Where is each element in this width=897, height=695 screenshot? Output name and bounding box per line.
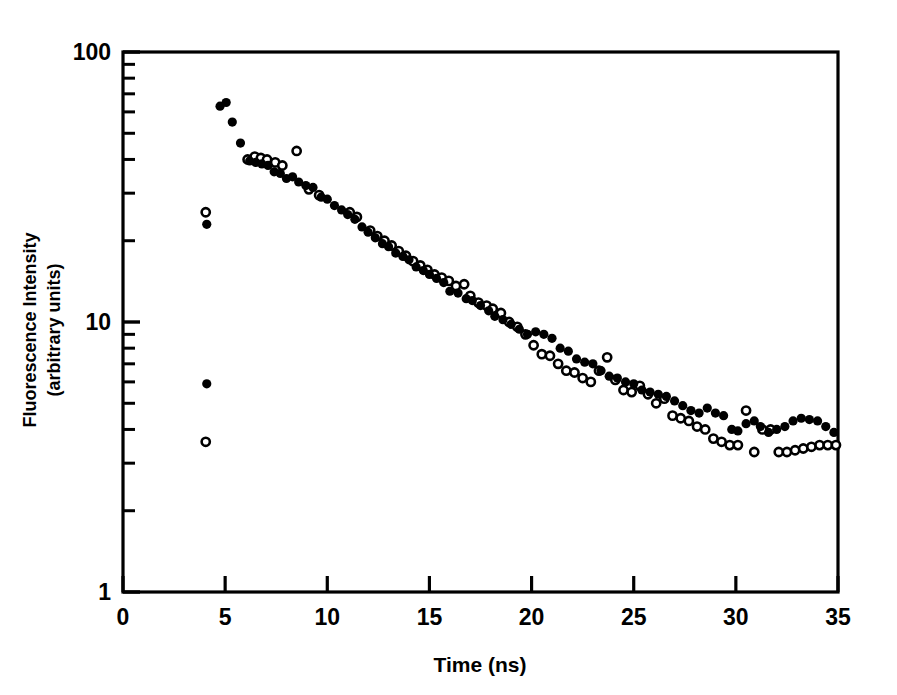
data-point-filled	[539, 330, 548, 339]
data-point-filled	[694, 408, 703, 417]
data-point-filled	[439, 278, 448, 287]
data-point-filled	[564, 347, 573, 356]
data-point-filled	[629, 379, 638, 388]
x-tick-label: 15	[417, 604, 443, 630]
data-point-filled	[637, 385, 646, 394]
data-point-filled	[711, 408, 720, 417]
data-point-open	[530, 341, 538, 349]
x-tick-label: 35	[825, 604, 851, 630]
data-point-filled	[490, 312, 499, 321]
data-point-filled	[719, 411, 728, 420]
x-tick-label: 0	[117, 604, 130, 630]
data-point-filled	[350, 215, 359, 224]
data-point-filled	[797, 414, 806, 423]
data-point-filled	[468, 296, 477, 305]
data-point-filled	[445, 287, 454, 296]
data-point-filled	[404, 255, 413, 264]
data-point-open	[652, 399, 660, 407]
data-point-filled	[476, 301, 485, 310]
data-point-filled	[605, 372, 614, 381]
data-point-open	[832, 441, 840, 449]
data-point-filled	[588, 359, 597, 368]
data-point-open	[603, 353, 611, 361]
x-tick-label: 5	[219, 604, 232, 630]
data-point-filled	[228, 118, 237, 127]
data-point-open	[202, 438, 210, 446]
data-point-open	[685, 417, 693, 425]
data-point-open	[750, 448, 758, 456]
data-point-filled	[764, 428, 773, 437]
figure-container: 100101 05101520253035 Time (ns) Fluoresc…	[0, 0, 897, 695]
data-point-filled	[662, 392, 671, 401]
data-point-filled	[686, 406, 695, 415]
data-point-open	[202, 208, 210, 216]
data-point-open	[570, 368, 578, 376]
data-point-filled	[654, 390, 663, 399]
data-point-open	[278, 161, 286, 169]
data-point-filled	[613, 373, 622, 382]
data-point-filled	[202, 220, 211, 229]
data-point-filled	[507, 320, 516, 329]
y-tick-label: 1	[98, 579, 111, 605]
data-point-open	[587, 378, 595, 386]
x-tick-label: 30	[723, 604, 749, 630]
x-tick-label: 20	[519, 604, 545, 630]
data-point-filled	[821, 422, 830, 431]
data-point-filled	[453, 288, 462, 297]
data-point-filled	[788, 416, 797, 425]
data-point-filled	[596, 366, 605, 375]
y-tick-label: 10	[85, 309, 111, 335]
data-point-filled	[741, 419, 750, 428]
data-point-open	[460, 280, 468, 288]
data-point-filled	[371, 233, 380, 242]
data-point-open	[628, 388, 636, 396]
data-point-filled	[523, 330, 532, 339]
data-point-open	[701, 425, 709, 433]
data-point-filled	[308, 183, 317, 192]
y-axis-title-line2: (arbitrary units)	[44, 263, 64, 396]
data-point-open	[783, 448, 791, 456]
data-point-filled	[756, 422, 765, 431]
x-tick-label: 25	[621, 604, 647, 630]
data-point-open	[791, 446, 799, 454]
y-tick-label: 100	[73, 39, 111, 65]
data-point-open	[546, 352, 554, 360]
data-point-filled	[556, 344, 565, 353]
data-point-filled	[236, 138, 245, 147]
data-point-filled	[498, 315, 507, 324]
data-point-open	[799, 444, 807, 452]
data-point-open	[742, 406, 750, 414]
data-point-filled	[202, 379, 211, 388]
data-point-filled	[580, 358, 589, 367]
data-point-open	[538, 350, 546, 358]
data-point-filled	[621, 377, 630, 386]
data-point-filled	[829, 428, 838, 437]
data-point-filled	[670, 396, 679, 405]
data-point-filled	[678, 401, 687, 410]
data-point-filled	[531, 327, 540, 336]
data-point-open	[734, 441, 742, 449]
data-point-filled	[703, 403, 712, 412]
data-point-filled	[780, 422, 789, 431]
data-point-filled	[547, 334, 556, 343]
data-point-filled	[772, 425, 781, 434]
data-point-open	[554, 360, 562, 368]
data-point-filled	[805, 415, 814, 424]
x-tick-label: 10	[314, 604, 340, 630]
fluorescence-decay-chart: 100101 05101520253035 Time (ns) Fluoresc…	[0, 0, 897, 695]
data-point-filled	[645, 388, 654, 397]
data-point-filled	[733, 426, 742, 435]
data-point-filled	[323, 195, 332, 204]
data-point-filled	[222, 98, 231, 107]
data-point-open	[562, 367, 570, 375]
data-point-filled	[572, 354, 581, 363]
data-point-open	[807, 443, 815, 451]
y-axis-title-line1: Fluorescence Intensity	[20, 232, 40, 427]
x-axis-title: Time (ns)	[434, 653, 527, 676]
data-point-filled	[515, 325, 524, 334]
data-point-filled	[384, 242, 393, 251]
data-point-filled	[813, 416, 822, 425]
data-point-open	[293, 147, 301, 155]
